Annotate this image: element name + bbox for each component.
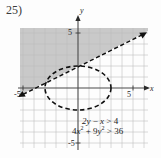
y-axis-tick-label-positive: 5	[68, 28, 72, 37]
y-axis-tick-label-negative: -5	[68, 139, 75, 148]
x-axis-tick-label-positive: 5	[127, 90, 131, 99]
x-axis-tick-label-negative: -5	[14, 90, 21, 99]
graph-figure	[0, 0, 161, 158]
y-axis-label: y	[80, 6, 84, 15]
x-axis-label: x	[150, 84, 154, 93]
y-axis-arrowhead	[75, 15, 80, 21]
problem-figure-container: 25)	[0, 0, 161, 158]
